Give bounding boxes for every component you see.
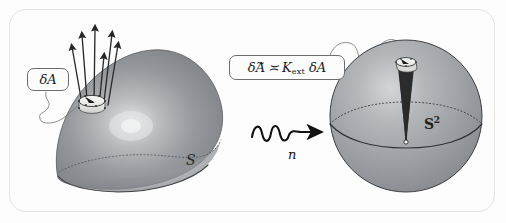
- label-formula: δ~A≍KextδA: [229, 55, 345, 80]
- sphere-center-point: [404, 140, 408, 144]
- label-gauss-map: n: [288, 147, 296, 162]
- label-sphere-base: S: [424, 116, 434, 132]
- curvature-subscript: ext: [292, 67, 305, 76]
- label-area-element-text: δA: [39, 73, 56, 86]
- figure-root: δA δ~A≍KextδA S S2 n: [0, 0, 506, 223]
- label-sphere-exponent: 2: [434, 115, 440, 125]
- relation-symbol: ≍: [265, 60, 282, 75]
- left-surface-group: [56, 50, 222, 192]
- sphere-area-patch: [396, 58, 416, 67]
- map-arrow-group: [252, 126, 311, 141]
- diagram-canvas: [0, 0, 506, 223]
- label-sphere: S2: [424, 115, 440, 132]
- label-area-element: δA: [27, 68, 69, 91]
- tilde-accent: ~: [255, 58, 266, 68]
- right-sphere-group: [330, 40, 482, 192]
- label-surface: S: [186, 152, 196, 168]
- label-formula-text: δ~A≍KextδA: [248, 59, 326, 76]
- surface-highlight-core: [121, 119, 141, 133]
- squiggly-arrow: [252, 126, 311, 141]
- normal-arrow: [72, 47, 82, 104]
